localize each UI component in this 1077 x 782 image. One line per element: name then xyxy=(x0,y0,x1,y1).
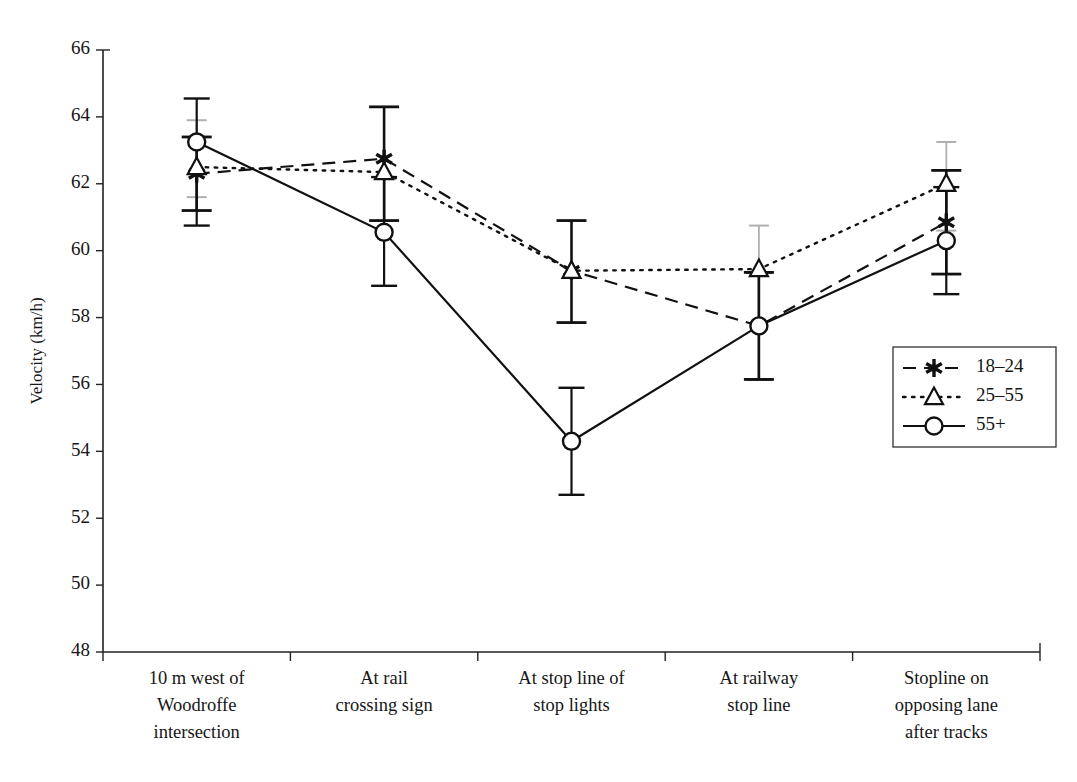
x-category-label: 10 m west of xyxy=(149,668,246,688)
star-core xyxy=(943,218,951,226)
y-tick-label: 64 xyxy=(71,104,91,125)
x-category-label: stop lights xyxy=(533,695,610,715)
chart-container: 48505254565860626466 Velocity (km/h) 10 … xyxy=(0,0,1077,782)
data-point-marker-circle xyxy=(938,232,955,249)
y-tick-label: 48 xyxy=(71,639,90,660)
x-category-label: opposing lane xyxy=(895,695,998,715)
data-point-marker-circle xyxy=(376,224,393,241)
y-axis-title-text: Velocity (km/h) xyxy=(27,297,46,404)
data-point-marker-triangle xyxy=(750,260,768,277)
y-axis-title: Velocity (km/h) xyxy=(27,297,46,404)
legend-label-text: 18–24 xyxy=(976,355,1024,376)
y-tick-label: 50 xyxy=(71,572,90,593)
x-category-label: At stop line of xyxy=(518,668,625,688)
legend-marker-circle xyxy=(926,418,943,435)
legend-border xyxy=(893,347,1056,447)
x-category-label: stop line xyxy=(727,695,790,715)
data-point-marker-triangle xyxy=(937,174,955,191)
y-tick-label: 56 xyxy=(71,372,90,393)
legend-label-text: 55+ xyxy=(976,413,1006,434)
x-category-label: crossing sign xyxy=(336,695,433,715)
y-tick-labels: 48505254565860626466 xyxy=(71,37,91,660)
velocity-line-chart: 48505254565860626466 Velocity (km/h) 10 … xyxy=(0,0,1077,782)
legend-label-text: 25–55 xyxy=(976,384,1024,405)
y-tick-label: 54 xyxy=(71,439,91,460)
data-point-marker-star xyxy=(939,213,955,231)
data-point-marker-circle xyxy=(188,133,205,150)
data-point-marker-circle xyxy=(563,433,580,450)
y-tick-label: 66 xyxy=(71,37,90,58)
category-labels-group: 10 m west ofWoodroffeintersectionAt rail… xyxy=(149,668,998,742)
y-tick-label: 52 xyxy=(71,506,90,527)
data-point-marker-triangle xyxy=(188,158,206,175)
data-point-marker-circle xyxy=(750,317,767,334)
x-category-label: after tracks xyxy=(905,722,988,742)
x-category-label: intersection xyxy=(154,722,240,742)
y-tick-label: 62 xyxy=(71,171,90,192)
x-category-label: At railway xyxy=(720,668,799,688)
x-category-label: Stopline on xyxy=(904,668,989,688)
y-tick-label: 58 xyxy=(71,305,90,326)
chart-legend[interactable]: 18–2425–5555+ xyxy=(893,347,1056,447)
x-category-label: At rail xyxy=(360,668,408,688)
y-tick-label: 60 xyxy=(71,238,90,259)
x-category-label: Woodroffe xyxy=(157,695,236,715)
star-core xyxy=(930,364,938,372)
